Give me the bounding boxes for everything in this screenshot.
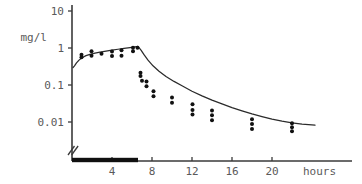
- infusion-duration-bar: [72, 158, 138, 162]
- y-axis-title: mg/l: [21, 31, 48, 44]
- data-point: [120, 54, 124, 58]
- x-tick-label: 4: [109, 165, 116, 178]
- data-point: [145, 84, 149, 88]
- data-point: [290, 129, 294, 133]
- data-point: [136, 46, 140, 50]
- data-point: [120, 48, 124, 52]
- axis-labels: mg/lhours: [21, 31, 337, 178]
- x-tick-label: 16: [225, 165, 238, 178]
- data-point: [250, 127, 254, 131]
- data-point: [90, 49, 94, 53]
- x-tick-label: 8: [149, 165, 156, 178]
- data-point: [290, 121, 294, 125]
- x-tick-label: 12: [185, 165, 198, 178]
- data-point: [170, 95, 174, 99]
- infusion-duration-bar-shape: [72, 158, 138, 162]
- data-point: [191, 112, 195, 116]
- y-tick-label: 0.1: [44, 79, 64, 92]
- data-point: [152, 89, 156, 93]
- data-point: [191, 108, 195, 112]
- data-point: [210, 108, 214, 112]
- data-point: [210, 113, 214, 117]
- chart-canvas: 1010.10.01 48121620 mg/lhours: [0, 0, 362, 184]
- data-point: [290, 125, 294, 129]
- y-tick-label: 0.01: [38, 116, 65, 129]
- y-tick-label: 10: [51, 5, 64, 18]
- data-point: [110, 54, 114, 58]
- x-axis-title: hours: [303, 165, 336, 178]
- data-point: [191, 102, 195, 106]
- data-point: [152, 94, 156, 98]
- y-tick-label: 1: [57, 42, 64, 55]
- data-point: [100, 52, 104, 56]
- data-point: [110, 50, 114, 54]
- y-axis: 1010.10.01: [38, 5, 73, 161]
- data-point: [131, 46, 135, 50]
- data-point: [250, 117, 254, 121]
- data-point: [80, 53, 84, 57]
- x-tick-label: 20: [265, 165, 278, 178]
- data-point: [210, 118, 214, 122]
- data-point: [139, 71, 143, 75]
- data-point: [145, 79, 149, 83]
- data-point: [250, 122, 254, 126]
- data-point: [170, 101, 174, 105]
- data-point: [90, 54, 94, 58]
- plasma-concentration-chart: 1010.10.01 48121620 mg/lhours: [0, 0, 362, 184]
- data-point: [140, 79, 144, 83]
- observed-data-points: [80, 46, 295, 134]
- data-point: [131, 49, 135, 53]
- axis-break-marker-icon: [68, 146, 78, 155]
